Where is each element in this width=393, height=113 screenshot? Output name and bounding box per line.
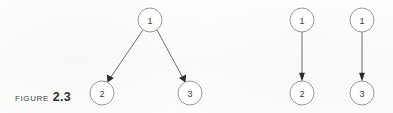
left-node-1-label: 1 — [147, 16, 152, 26]
left-node-1: 1 — [138, 8, 162, 32]
edge-a-1-to-2 — [299, 32, 305, 82]
edge-1-to-3-line — [157, 30, 184, 79]
edge-1-to-3-arrowhead — [179, 74, 186, 82]
diagram-fork-graph: 1 2 3 — [90, 8, 202, 105]
right-a-node-1: 1 — [290, 8, 314, 32]
left-node-3: 3 — [178, 81, 202, 105]
figure-caption-word: Figure — [15, 91, 49, 103]
left-node-2-label: 2 — [99, 89, 104, 99]
figure-caption-number: 2.3 — [53, 90, 71, 104]
left-node-3-label: 3 — [187, 89, 192, 99]
right-b-node-3: 3 — [350, 81, 374, 105]
figure-caption: Figure2.3 — [15, 88, 71, 104]
right-b-node-1: 1 — [350, 8, 374, 32]
figure-container: 1 2 3 1 2 — [0, 0, 393, 113]
edge-1-to-3 — [157, 30, 186, 83]
right-a-node-2: 2 — [290, 81, 314, 105]
edge-1-to-2 — [107, 30, 143, 83]
diagram-single-edge-graph-b: 1 3 — [350, 8, 374, 105]
edge-a-1-to-2-arrowhead — [299, 73, 305, 82]
right-a-node-2-label: 2 — [299, 89, 304, 99]
right-b-node-3-label: 3 — [359, 89, 364, 99]
diagram-single-edge-graph-a: 1 2 — [290, 8, 314, 105]
edge-1-to-2-line — [110, 30, 144, 79]
right-b-node-1-label: 1 — [359, 16, 364, 26]
left-node-2: 2 — [90, 81, 114, 105]
right-a-node-1-label: 1 — [299, 16, 304, 26]
edge-1-to-2-arrowhead — [107, 75, 114, 83]
edge-b-1-to-3-arrowhead — [359, 73, 365, 82]
edge-b-1-to-3 — [359, 32, 365, 82]
